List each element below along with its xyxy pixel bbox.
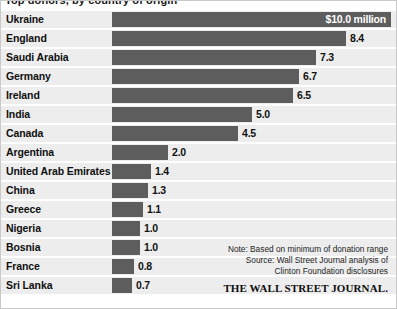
chart-row: United Arab Emirates1.4 <box>1 162 397 181</box>
bar-value-label: 1.4 <box>155 162 169 181</box>
bar-value-label: 0.7 <box>136 276 150 295</box>
bar <box>112 183 148 198</box>
chart-row: Ukraine$10.0 million <box>1 10 397 29</box>
bar <box>112 240 140 255</box>
category-label: India <box>6 105 30 124</box>
category-label: United Arab Emirates <box>6 162 110 181</box>
chart-footnote: Note: Based on minimum of donation range… <box>173 244 388 294</box>
bar-value-label: 6.7 <box>303 67 317 86</box>
bar <box>112 88 293 103</box>
footnote-note: Note: Based on minimum of donation range <box>173 244 388 255</box>
bar-value-label: 4.5 <box>242 124 256 143</box>
bar-value-label: 7.3 <box>320 48 334 67</box>
chart-row: Greece1.1 <box>1 200 397 219</box>
bar-value-label: 0.8 <box>138 257 152 276</box>
category-label: Germany <box>6 67 51 86</box>
bar <box>112 50 316 65</box>
chart-row: Nigeria1.0 <box>1 219 397 238</box>
bar-value-label: 1.1 <box>147 200 161 219</box>
bar-value-label: 2.0 <box>172 143 186 162</box>
footnote-source-line-2: Clinton Foundation disclosures <box>173 266 388 277</box>
chart-row: India5.0 <box>1 105 397 124</box>
category-label: Argentina <box>6 143 54 162</box>
category-label: England <box>6 29 47 48</box>
category-label: Sri Lanka <box>6 276 52 295</box>
category-label: Greece <box>6 200 41 219</box>
chart-row: China1.3 <box>1 181 397 200</box>
wsj-logo: THE WALL STREET JOURNAL. <box>173 282 388 294</box>
bar <box>112 221 140 236</box>
bar-value-label: 1.3 <box>152 181 166 200</box>
bar-value-label: 6.5 <box>297 86 311 105</box>
bar <box>112 31 346 46</box>
chart-title: Top donors, by country of origin <box>5 1 177 6</box>
bar <box>112 69 299 84</box>
bar-value-label: $10.0 million <box>112 10 386 29</box>
bar <box>112 164 151 179</box>
bar <box>112 126 238 141</box>
bar-value-label: 8.4 <box>350 29 364 48</box>
bar-value-label: 1.0 <box>144 238 158 257</box>
chart-row: England8.4 <box>1 29 397 48</box>
chart-row: Germany6.7 <box>1 67 397 86</box>
category-label: Ireland <box>6 86 40 105</box>
category-label: Bosnia <box>6 238 40 257</box>
chart-row: Ireland6.5 <box>1 86 397 105</box>
chart-row: Argentina2.0 <box>1 143 397 162</box>
chart-row: Saudi Arabia7.3 <box>1 48 397 67</box>
bar <box>112 278 132 293</box>
row-background-band <box>1 144 397 161</box>
chart-title-strip: Top donors, by country of origin <box>1 1 397 10</box>
bar-value-label: 5.0 <box>256 105 270 124</box>
chart-row: Canada4.5 <box>1 124 397 143</box>
bar <box>112 259 134 274</box>
category-label: China <box>6 181 35 200</box>
bar-chart-figure: Top donors, by country of origin Ukraine… <box>0 0 397 309</box>
bar <box>112 107 252 122</box>
category-label: Canada <box>6 124 43 143</box>
category-label: Saudi Arabia <box>6 48 69 67</box>
bar <box>112 202 143 217</box>
footnote-source-line-1: Source: Wall Street Journal analysis of <box>173 255 388 266</box>
row-background-band <box>1 201 397 218</box>
row-background-band <box>1 220 397 237</box>
category-label: France <box>6 257 40 276</box>
category-label: Ukraine <box>6 10 44 29</box>
row-background-band <box>1 182 397 199</box>
bar-value-label: 1.0 <box>144 219 158 238</box>
bar <box>112 145 168 160</box>
category-label: Nigeria <box>6 219 41 238</box>
